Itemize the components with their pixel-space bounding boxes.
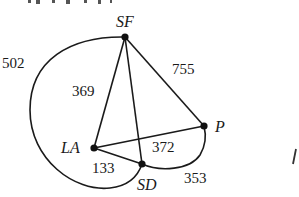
edge-weight-369: 369 <box>72 84 95 99</box>
edge-weight-755: 755 <box>172 62 195 77</box>
edge-weight-372: 372 <box>152 140 175 155</box>
node-sd <box>138 160 145 167</box>
node-label-la: LA <box>61 140 80 156</box>
edge-weight-353: 353 <box>184 171 207 186</box>
node-la <box>90 144 97 151</box>
graph-diagram: SF LA SD P 502 369 755 372 133 353 <box>0 0 299 197</box>
edge-la-p <box>94 126 204 148</box>
node-sf <box>121 33 128 40</box>
clipped-top-text <box>28 0 112 4</box>
edge-sf-la <box>94 37 125 148</box>
node-label-p: P <box>215 119 225 135</box>
edge-weight-502: 502 <box>2 56 25 71</box>
node-label-sd: SD <box>137 177 157 193</box>
edge-sf-p <box>125 37 204 126</box>
partial-right-glyph <box>293 149 296 164</box>
node-p <box>200 122 207 129</box>
node-label-sf: SF <box>116 14 134 30</box>
edge-sf-sd-curved <box>30 37 142 188</box>
edge-weight-133: 133 <box>92 161 115 176</box>
edge-sf-sd <box>125 37 142 164</box>
graph-edges <box>0 0 299 197</box>
